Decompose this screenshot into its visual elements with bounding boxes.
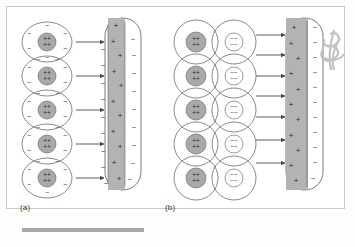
molecule xyxy=(174,20,256,64)
plate-charge-label: − xyxy=(313,38,318,47)
panel-a-field-arrows xyxy=(76,42,104,178)
plate-charge-label: + xyxy=(111,37,116,46)
shell-charge-label: − xyxy=(63,132,67,139)
shell-charge-label: − xyxy=(36,158,40,165)
shell-charge-label: − xyxy=(36,90,40,97)
plate-charge-label: − xyxy=(313,83,318,92)
shell-charge-label: − xyxy=(27,64,31,71)
plate-charge-label: − xyxy=(128,175,133,184)
plate-charge-label: − xyxy=(104,179,109,188)
plate-charge-label: + xyxy=(118,111,123,120)
panel-a-label: (a) xyxy=(20,203,30,212)
molecule xyxy=(174,88,256,132)
shell-charge-label: − xyxy=(27,113,31,120)
shell-charge-label: − xyxy=(63,166,67,173)
core-charge-label: ++ xyxy=(43,143,51,150)
plate-charge-label: + xyxy=(118,142,123,151)
plate-charge-label: − xyxy=(313,128,318,137)
plate-charge-label: + xyxy=(111,127,116,136)
shell-charge-label: − xyxy=(55,90,59,97)
plate-charge-label: − xyxy=(313,98,318,107)
plate-charge-label: + xyxy=(292,23,297,32)
shell-charge-label: − xyxy=(45,189,49,196)
core-charge-label: ++ xyxy=(43,109,51,116)
core-charge-label: ++ xyxy=(192,143,200,150)
panel-b: ++ ++ ++ ++ ++ ++ ++ ++ ++ ++ −− −− −− −… xyxy=(174,18,323,200)
figure-page: Dielectric polarization at a charged pla… xyxy=(0,0,355,247)
shell-charge-label: − xyxy=(63,45,67,52)
shell-charge-label: − xyxy=(63,181,67,188)
shell-charge-label: − xyxy=(55,158,59,165)
plate-charge-label: − xyxy=(313,53,318,62)
plate-charge-label: + xyxy=(289,69,294,78)
plate-charge-label: − xyxy=(101,147,106,156)
plate-charge-label: + xyxy=(119,81,124,90)
plate-charge-label: + xyxy=(294,176,299,185)
core-charge-label: −− xyxy=(230,109,238,116)
shell-charge-label: − xyxy=(63,30,67,37)
plate-charge-label: + xyxy=(289,39,294,48)
shell-charge-label: − xyxy=(45,22,49,29)
plate-charge-label: + xyxy=(289,131,294,140)
plate-charge-label: + xyxy=(296,146,301,155)
panel-b-negative-core-symbols: −− −− −− −− −− −− −− −− −− −− xyxy=(230,35,238,184)
shell-charge-label: − xyxy=(27,166,31,173)
plate-charge-label: + xyxy=(296,115,301,124)
shell-charge-label: − xyxy=(36,124,40,131)
plate-charge-label: − xyxy=(313,23,318,32)
core-charge-label: ++ xyxy=(192,109,200,116)
plate-charge-label: − xyxy=(101,61,106,70)
shell-charge-label: − xyxy=(36,56,40,63)
core-charge-label: −− xyxy=(230,143,238,150)
molecule xyxy=(174,156,256,200)
plate-charge-label: + xyxy=(114,21,119,30)
molecule xyxy=(174,54,256,98)
molecule xyxy=(174,122,256,166)
plate-charge-label: − xyxy=(101,95,106,104)
plate-charge-label: + xyxy=(117,174,122,183)
plate-charge-label: − xyxy=(101,79,106,88)
panel-b-field-arrows xyxy=(256,35,285,163)
plate-charge-label: − xyxy=(313,143,318,152)
plate-charge-label: − xyxy=(131,35,136,44)
plate-charge-label: − xyxy=(131,159,136,168)
bottom-rule xyxy=(22,228,144,232)
core-charge-label: −− xyxy=(230,41,238,48)
core-charge-label: ++ xyxy=(43,75,51,82)
plate-charge-label: − xyxy=(132,141,137,150)
plate-charge-label: − xyxy=(101,163,106,172)
panel-a-charged-plate: + + + + + + + + + + + − − − − xyxy=(101,18,141,190)
plate-charge-label: − xyxy=(132,123,137,132)
shell-charge-label: − xyxy=(27,181,31,188)
shell-charge-label: − xyxy=(63,98,67,105)
shell-charge-label: − xyxy=(45,54,49,61)
pencil-scribble-icon xyxy=(321,30,344,70)
plate-charge-label: − xyxy=(101,129,106,138)
plate-charge-label: − xyxy=(132,87,137,96)
shell-charge-label: − xyxy=(55,56,59,63)
panel-a: ++ ++ ++ ++ ++ ++ ++ ++ ++ ++ − − − − − … xyxy=(22,18,141,198)
core-charge-label: −− xyxy=(230,75,238,82)
panel-b-positive-core-symbols: ++ ++ ++ ++ ++ ++ ++ ++ ++ ++ xyxy=(192,35,200,184)
plate-charge-label: + xyxy=(296,54,301,63)
plate-charge-label: − xyxy=(311,174,316,183)
shell-charge-label: − xyxy=(63,113,67,120)
plate-charge-label: − xyxy=(101,113,106,122)
plate-charge-label: + xyxy=(112,158,117,167)
plate-charge-label: − xyxy=(313,68,318,77)
shell-charge-label: − xyxy=(63,79,67,86)
core-charge-label: ++ xyxy=(192,41,200,48)
shell-charge-label: − xyxy=(27,147,31,154)
shell-charge-label: − xyxy=(55,124,59,131)
plate-charge-label: + xyxy=(289,161,294,170)
shell-charge-label: − xyxy=(63,147,67,154)
plate-charge-label: − xyxy=(101,45,106,54)
plate-charge-label: − xyxy=(132,69,137,78)
panel-b-label: (b) xyxy=(165,203,175,212)
polarization-diagram: Dielectric polarization at a charged pla… xyxy=(0,0,355,247)
core-charge-label: ++ xyxy=(43,41,51,48)
plate-charge-label: + xyxy=(111,97,116,106)
plate-charge-label: − xyxy=(132,51,137,60)
panel-b-charged-plate: + + + + + + + + + + + − − − − xyxy=(286,18,323,190)
core-charge-label: −− xyxy=(230,177,238,184)
